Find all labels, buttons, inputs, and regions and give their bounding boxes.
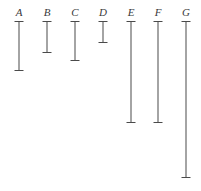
interval-label: F — [155, 7, 162, 18]
interval-bottom-cap — [43, 52, 52, 53]
interval-label: D — [99, 7, 107, 18]
interval-stem — [103, 21, 104, 42]
interval-bottom-cap — [15, 70, 24, 71]
interval-bottom-cap — [99, 42, 108, 43]
interval-stem — [19, 21, 20, 70]
interval-label: A — [16, 7, 23, 18]
interval-stem — [131, 21, 132, 122]
interval-bottom-cap — [127, 122, 136, 123]
interval-bottom-cap — [154, 122, 163, 123]
interval-chart: ABCDEFG — [0, 0, 201, 191]
interval-stem — [158, 21, 159, 122]
interval-stem — [47, 21, 48, 52]
interval-bottom-cap — [71, 60, 80, 61]
interval-label: G — [182, 7, 190, 18]
interval-stem — [186, 21, 187, 177]
interval-bottom-cap — [182, 177, 191, 178]
interval-label: B — [44, 7, 51, 18]
interval-label: C — [71, 7, 78, 18]
interval-label: E — [128, 7, 135, 18]
interval-stem — [75, 21, 76, 60]
